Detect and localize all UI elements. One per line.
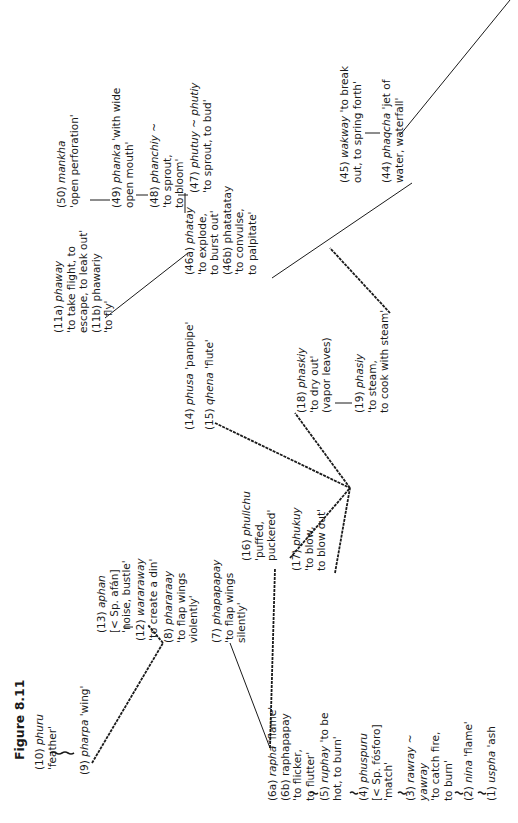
entry-46: (46a) phatay 'to explode, to burst out' …	[183, 186, 258, 275]
entry-47: (47) phutuy ~ phutiy 'to sprout, to bud'	[188, 82, 213, 193]
wavy-link-19-right	[330, 248, 390, 313]
entry-14: (14) phusa 'panpipe'	[183, 322, 196, 430]
entry-2: (2) nina 'flame'	[462, 721, 475, 801]
entry-16: (16) phullchu 'puffed, puckered'	[240, 491, 278, 561]
entry-13: (13) aphan [< Sp. afán] 'noise, bustle'	[95, 560, 133, 633]
entry-11: (11a) phaway 'to take flight, to escape,…	[52, 230, 115, 333]
link-7-6	[230, 643, 270, 748]
entry-8: (8) phararaay 'to flap wings violently'	[162, 571, 200, 643]
entry-48: (48) phanchiy ~ 'to sprout, to bloom'	[148, 123, 186, 208]
entry-9: (9) pharpa 'wing'	[78, 686, 91, 775]
entry-1: (1) uspha 'ash	[485, 726, 498, 801]
entry-4: (4) phuspuru [< Sp. fósforo] 'match'	[357, 724, 395, 801]
wavy-link-17-hub	[335, 488, 350, 573]
entry-6: (6a) rapha 'flame' (6b) raphapapay 'to f…	[266, 707, 316, 801]
entry-7: (7) phapapapay 'to flap wings silently'	[210, 560, 248, 644]
entry-10: (10) phuru 'feather'	[33, 714, 58, 770]
entry-50: (50) mankha 'open perforation'	[55, 114, 80, 208]
wavy-link-hub-18	[295, 413, 350, 488]
entry-17: (17) phukuy 'to blow, to blow out'	[290, 507, 328, 571]
link-44-edge	[400, 0, 510, 135]
entry-12: (12) wararaway 'to create a din'	[134, 558, 159, 641]
entry-3: (3) rawray ~ yawray 'to catch fire, to b…	[404, 732, 454, 801]
link-46b-44	[272, 183, 412, 278]
entry-18: (18) phaskiy 'to dry out' (vapor leaves)	[295, 337, 333, 413]
entry-19: (19) phasiy 'to steam, to cook with stea…	[353, 310, 391, 413]
figure-title: Figure 8.11	[12, 679, 27, 760]
entry-5: (5) ruphay 'to be hot, to burn'	[318, 713, 343, 801]
wavy-link-15-hub	[215, 423, 350, 488]
entry-44: (44) phaqcha 'jet of water, waterfall'	[380, 80, 405, 183]
rotated-figure-page: Figure 8.11 (10) phuru 'feather' (9) pha…	[0, 0, 518, 823]
entry-49: (49) phanka 'with wide open mouth'	[110, 88, 135, 208]
entry-15: (15) qhena 'flute'	[203, 339, 216, 430]
entry-45: (45) wakway 'to break out, to spring for…	[338, 66, 363, 183]
link-11-46a	[105, 253, 188, 318]
wavy-link-9-8	[92, 643, 163, 763]
